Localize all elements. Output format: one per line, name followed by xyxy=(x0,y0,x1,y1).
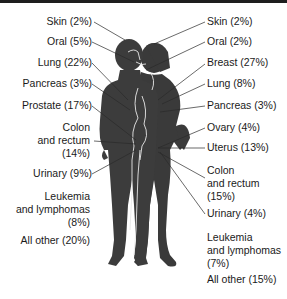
female-label-all-other: All other (15%) xyxy=(207,273,276,286)
male-leukemia-line-3: (8%) xyxy=(16,216,90,229)
female-label-pancreas: Pancreas (3%) xyxy=(207,99,276,112)
male-label-skin: Skin (2%) xyxy=(46,15,92,28)
male-label-leukemia-lymphomas: Leukemia and lymphomas (8%) xyxy=(16,190,90,229)
female-leukemia-line-2: and lymphomas xyxy=(207,244,281,257)
male-label-pancreas: Pancreas (3%) xyxy=(23,77,92,90)
female-label-uterus: Uterus (13%) xyxy=(207,141,269,154)
male-label-all-other: All other (20%) xyxy=(21,234,90,247)
female-label-leukemia-lymphomas: Leukemia and lymphomas (7%) xyxy=(207,231,281,270)
male-leukemia-line-1: Leukemia xyxy=(16,190,90,203)
male-label-prostate: Prostate (17%) xyxy=(22,99,92,112)
female-colon-line-1: Colon xyxy=(207,164,260,177)
female-colon-line-3: (15%) xyxy=(207,190,260,203)
male-silhouette xyxy=(100,39,159,266)
male-label-colon-rectum: Colon and rectum (14%) xyxy=(37,121,90,160)
female-leukemia-line-1: Leukemia xyxy=(207,231,281,244)
female-leukemia-line-3: (7%) xyxy=(207,257,281,270)
female-label-ovary: Ovary (4%) xyxy=(207,121,260,134)
female-label-urinary: Urinary (4%) xyxy=(207,207,266,220)
male-colon-line-1: Colon xyxy=(37,121,90,134)
female-label-oral: Oral (2%) xyxy=(207,35,252,48)
female-label-lung: Lung (8%) xyxy=(207,77,255,90)
male-label-urinary: Urinary (9%) xyxy=(33,167,92,180)
female-colon-line-2: and rectum xyxy=(207,177,260,190)
female-label-colon-rectum: Colon and rectum (15%) xyxy=(207,164,260,203)
female-label-breast: Breast (27%) xyxy=(207,56,268,69)
male-label-lung: Lung (22%) xyxy=(38,56,92,69)
female-label-skin: Skin (2%) xyxy=(207,15,253,28)
male-label-oral: Oral (5%) xyxy=(47,35,92,48)
male-colon-line-2: and rectum xyxy=(37,134,90,147)
male-colon-line-3: (14%) xyxy=(37,147,90,160)
male-leukemia-line-2: and lymphomas xyxy=(16,203,90,216)
